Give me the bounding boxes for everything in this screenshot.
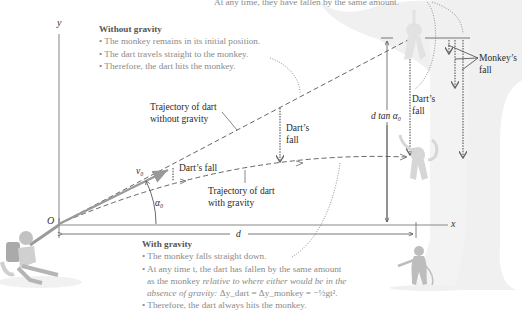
with-gravity-bullet: • Therefore, the dart always hits the mo… bbox=[142, 299, 346, 311]
x-axis-label: x bbox=[451, 218, 455, 229]
with-gravity-notes: With gravity • The monkey falls straight… bbox=[142, 238, 346, 311]
without-gravity-heading: Without gravity bbox=[99, 23, 260, 35]
y-axis-label: y bbox=[57, 17, 61, 28]
hunter-figure bbox=[0, 225, 82, 288]
label-height-d-tan-alpha: d tan α₀ bbox=[370, 110, 402, 122]
velocity-vector bbox=[59, 170, 168, 224]
with-gravity-bullet-cont: absence of gravity: Δy_dart = Δy_monkey … bbox=[142, 287, 346, 299]
label-velocity-v0: v₀ bbox=[136, 165, 144, 177]
fall-equation: Δy_dart = Δy_monkey = −½gt². bbox=[220, 288, 338, 298]
with-gravity-bullet-cont: as the monkey relative to where either w… bbox=[142, 275, 346, 287]
label-monkeys-fall: Monkey’s fall bbox=[479, 52, 517, 76]
with-gravity-bullet: • The monkey falls straight down. bbox=[142, 250, 346, 262]
label-distance-d: d bbox=[236, 228, 241, 240]
origin-label: O bbox=[47, 215, 54, 226]
with-gravity-bullet: • At any time t, the dart has fallen by … bbox=[142, 263, 346, 275]
with-gravity-heading: With gravity bbox=[142, 238, 346, 250]
label-darts-fall-mid: Dart’s fall bbox=[286, 122, 309, 146]
top-caption: At any time, they have fallen by the sam… bbox=[214, 0, 399, 8]
label-darts-fall-small: Dart’s fall bbox=[179, 162, 217, 174]
label-angle-alpha0: α₀ bbox=[155, 197, 163, 209]
label-trajectory-without-gravity: Trajectory of dart without gravity bbox=[150, 101, 217, 125]
without-gravity-bullet: • Therefore, the dart hits the monkey. bbox=[99, 60, 260, 72]
without-gravity-bullet: • The monkey remains in its initial posi… bbox=[99, 35, 260, 47]
without-gravity-notes: Without gravity • The monkey remains in … bbox=[99, 23, 260, 72]
without-gravity-bullet: • The dart travels straight to the monke… bbox=[99, 48, 260, 60]
label-darts-fall-right: Dart’s fall bbox=[412, 93, 435, 117]
label-trajectory-with-gravity: Trajectory of dart with gravity bbox=[208, 185, 275, 209]
